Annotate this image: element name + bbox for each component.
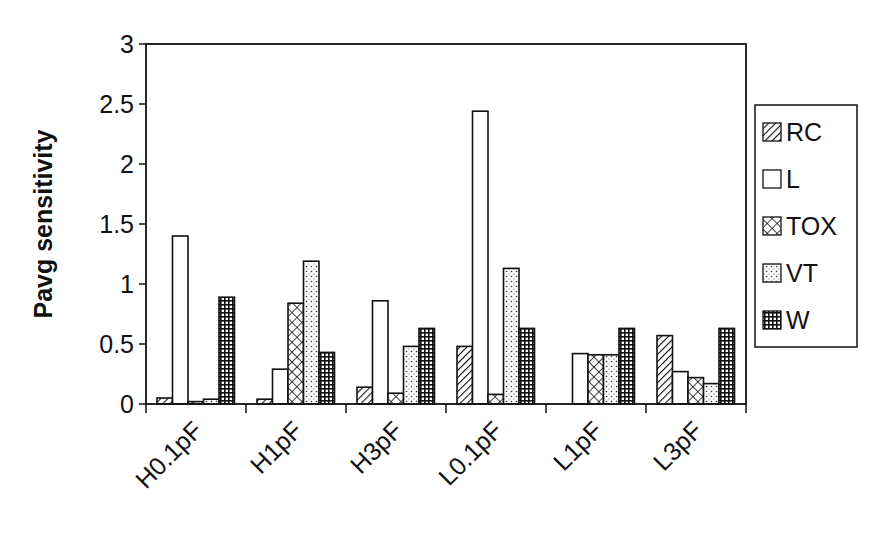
legend-swatch	[763, 123, 781, 141]
y-axis-title: Pavg sensitivity	[29, 129, 57, 318]
legend-swatch	[763, 264, 781, 282]
y-tick-label: 3	[120, 30, 134, 58]
bar-l	[473, 111, 489, 404]
legend-label: TOX	[786, 212, 837, 240]
x-tick-label: L3pF	[647, 416, 707, 476]
bar-group-l0-1pf	[457, 111, 535, 404]
y-tick-label: 0.5	[99, 330, 134, 358]
x-tick-label: H3pF	[345, 416, 408, 479]
bar-tox	[688, 378, 704, 404]
bar-group-h0-1pf	[157, 236, 235, 404]
bar-vt	[404, 346, 420, 404]
legend-swatch	[763, 217, 781, 235]
bar-rc	[457, 346, 473, 404]
x-tick-label: H1pF	[245, 416, 308, 479]
bar-group-h1pf	[257, 261, 335, 404]
bar-l	[673, 372, 689, 404]
bar-vt	[504, 268, 520, 404]
bar-w	[419, 328, 435, 404]
bar-l	[273, 369, 289, 404]
bar-tox	[388, 393, 404, 404]
bar-tox	[288, 303, 304, 404]
bar-vt	[304, 261, 320, 404]
bar-group-l3pf	[657, 328, 735, 404]
bar-rc	[657, 336, 673, 404]
y-tick-label: 2.5	[99, 90, 134, 118]
legend-label: RC	[786, 118, 822, 146]
plot-frame	[146, 44, 746, 404]
bar-chart: Pavg sensitivity 00.511.522.53 H0.1pFH1p…	[0, 0, 879, 558]
bars	[157, 111, 735, 404]
x-tick-label: L1pF	[547, 416, 607, 476]
bar-tox	[588, 355, 604, 404]
bar-w	[219, 297, 235, 404]
y-axis-ticks: 00.511.522.53	[99, 30, 146, 418]
bar-w	[719, 328, 735, 404]
legend-label: L	[786, 165, 800, 193]
bar-w	[519, 328, 535, 404]
x-axis-ticks: H0.1pFH1pFH3pFL0.1pFL1pFL3pF	[130, 404, 746, 494]
x-tick-label: L0.1pF	[433, 416, 508, 491]
y-axis-label: Pavg sensitivity	[29, 129, 57, 318]
y-tick-label: 1.5	[99, 210, 134, 238]
legend: RCLTOXVTW	[755, 105, 857, 347]
y-tick-label: 0	[120, 390, 134, 418]
plot-area-border	[146, 44, 746, 404]
bar-vt	[604, 355, 620, 404]
bar-vt	[704, 384, 720, 404]
legend-swatch	[763, 311, 781, 329]
legend-label: W	[786, 306, 810, 334]
bar-group-h3pf	[357, 301, 435, 404]
bar-group-l1pf	[573, 328, 635, 404]
bar-l	[373, 301, 389, 404]
y-tick-label: 1	[120, 270, 134, 298]
legend-swatch	[763, 170, 781, 188]
legend-label: VT	[786, 259, 818, 287]
bar-rc	[357, 387, 373, 404]
bar-tox	[488, 394, 504, 404]
bar-l	[573, 354, 589, 404]
y-tick-label: 2	[120, 150, 134, 178]
bar-w	[619, 328, 635, 404]
x-tick-label: H0.1pF	[130, 416, 208, 494]
bar-w	[319, 352, 335, 404]
chart-canvas: Pavg sensitivity 00.511.522.53 H0.1pFH1p…	[0, 0, 879, 558]
bar-l	[173, 236, 189, 404]
